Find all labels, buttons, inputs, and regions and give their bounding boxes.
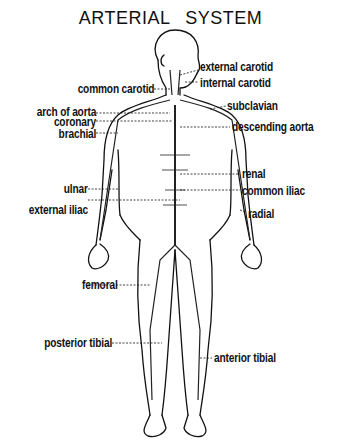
label-internal-carotid: internal carotid <box>200 76 271 90</box>
label-subclavian: subclavian <box>227 99 278 113</box>
label-external-iliac: external iliac <box>29 203 88 217</box>
label-descending-aorta: descending aorta <box>232 120 313 134</box>
label-ulnar: ulnar <box>64 182 88 196</box>
label-brachial: brachial <box>58 127 96 141</box>
label-posterior-tibial: posterior tibial <box>44 336 112 350</box>
label-renal: renal <box>242 167 265 181</box>
human-body-figure <box>0 0 341 443</box>
label-radial: radial <box>248 207 274 221</box>
label-anterior-tibial: anterior tibial <box>214 351 276 365</box>
label-common-carotid: common carotid <box>77 82 154 96</box>
label-external-carotid: external carotid <box>200 60 273 74</box>
label-common-iliac: common iliac <box>242 184 305 198</box>
label-femoral: femoral <box>82 278 118 292</box>
